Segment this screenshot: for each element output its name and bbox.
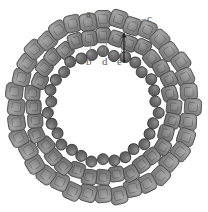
ring-subunit <box>95 169 112 186</box>
figure-label-d: d <box>102 56 108 67</box>
ring-subunit <box>81 30 98 47</box>
figure-label-a: a <box>86 8 91 19</box>
figure-label-b: b <box>86 56 92 67</box>
ring-subunit <box>26 99 41 114</box>
ring-diagram <box>0 0 208 212</box>
figure-label-c: c <box>147 13 152 24</box>
ring-subunit <box>97 153 109 165</box>
figure-label-e: e <box>117 56 122 67</box>
